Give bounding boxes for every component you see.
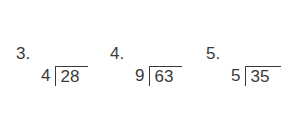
- problem-3-number: 3.: [16, 44, 30, 64]
- dividend: 28: [55, 66, 88, 86]
- problem-5-number: 5.: [206, 44, 220, 64]
- problem-4-division: 9 63: [135, 66, 182, 86]
- dividend: 35: [245, 66, 281, 86]
- problem-5-division: 5 35: [231, 66, 281, 86]
- dividend: 63: [149, 66, 182, 86]
- divisor: 5: [231, 66, 240, 86]
- problem-4-number: 4.: [110, 44, 124, 64]
- divisor: 9: [135, 66, 144, 86]
- divisor: 4: [41, 66, 50, 86]
- problem-3-division: 4 28: [41, 66, 88, 86]
